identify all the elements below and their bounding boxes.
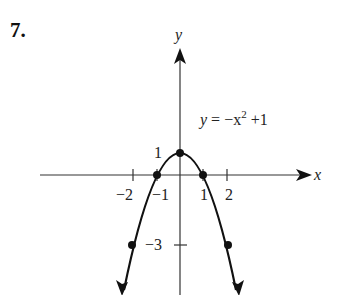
parabola-graph: y x y = −x2 +1 −2 −1 1 2 1 −3 <box>0 0 339 295</box>
y-tick-label-minus3: −3 <box>145 236 162 253</box>
equation-label: y = −x2 +1 <box>198 108 268 129</box>
point-1-0 <box>199 171 207 179</box>
point-0-1 <box>176 149 184 157</box>
point-minus1-0 <box>153 171 161 179</box>
point-minus2-minus3 <box>128 241 136 249</box>
y-axis-label: y <box>173 26 183 44</box>
y-tick-label-1: 1 <box>154 144 162 161</box>
x-tick-label-minus2: −2 <box>116 186 133 203</box>
x-tick-label-minus1: −1 <box>152 186 169 203</box>
point-2-minus3 <box>224 241 232 249</box>
x-tick-label-1: 1 <box>200 186 208 203</box>
x-axis-label: x <box>313 166 321 183</box>
x-tick-label-2: 2 <box>225 186 233 203</box>
